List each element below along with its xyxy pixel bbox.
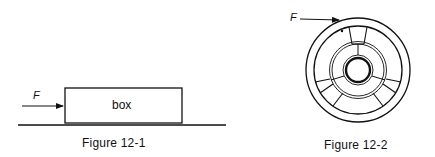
tangent-force-arrow-icon — [300, 19, 339, 20]
hub — [346, 58, 370, 82]
hub-outline — [343, 55, 373, 85]
inner-rim — [314, 26, 402, 114]
force-label-fig1: F — [33, 89, 40, 101]
reference-point — [341, 30, 343, 32]
wheel-spokes — [315, 27, 401, 106]
outer-rim — [306, 18, 410, 122]
figure-12-2-wheel — [300, 18, 410, 122]
caption-figure-12-2: Figure 12-2 — [324, 138, 388, 152]
hub-spokes — [331, 44, 385, 80]
force-label-fig2: F — [290, 11, 297, 23]
diagram-canvas — [0, 0, 435, 157]
box-label: box — [112, 98, 131, 112]
caption-figure-12-1: Figure 12-1 — [82, 136, 146, 150]
